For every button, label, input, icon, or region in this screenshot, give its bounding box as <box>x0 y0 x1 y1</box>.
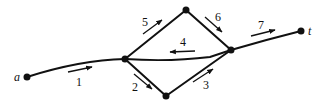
edge-label-4: 4 <box>180 35 186 49</box>
edge-label-7: 7 <box>258 18 264 32</box>
arrow-1-icon <box>68 67 92 72</box>
node-junction-left <box>122 56 129 63</box>
node-label-t: t <box>308 24 312 38</box>
edge-7 <box>231 31 301 50</box>
node-top <box>183 7 190 14</box>
node-a <box>24 74 31 81</box>
edge-label-5: 5 <box>142 15 148 29</box>
node-label-a: a <box>14 70 20 84</box>
edge-label-3: 3 <box>203 78 209 92</box>
node-bottom <box>163 93 170 100</box>
edge-label-1: 1 <box>76 75 82 89</box>
edge-label-2: 2 <box>132 80 138 94</box>
edge-label-6: 6 <box>215 10 221 24</box>
node-junction-right <box>228 47 235 54</box>
edge-6 <box>186 10 231 50</box>
network-diagram: 1 2 3 4 5 6 7 a t <box>0 0 322 109</box>
edge-3 <box>166 50 231 96</box>
node-t <box>298 28 305 35</box>
arrow-4-icon <box>170 51 195 52</box>
